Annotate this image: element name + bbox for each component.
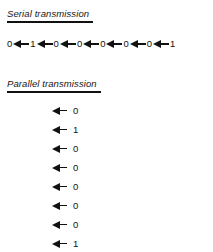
parallel-heading-underline [7, 91, 101, 93]
serial-bit-row: 01000001 [7, 36, 175, 52]
arrow-tail [60, 129, 67, 131]
arrow-tail [60, 148, 67, 150]
arrow-left-icon [130, 40, 138, 48]
arrow-left-icon [83, 40, 91, 48]
arrow-left-icon [37, 40, 45, 48]
parallel-transmission-arrow [52, 220, 67, 229]
parallel-section-heading: Parallel transmission [7, 78, 97, 89]
serial-transmission-arrow [60, 40, 76, 49]
parallel-bit: 1 [73, 239, 78, 249]
arrow-left-icon [52, 202, 60, 210]
serial-transmission-arrow [106, 40, 122, 49]
parallel-bit-row: 0 [52, 139, 112, 158]
arrow-tail [161, 43, 169, 45]
arrow-tail [60, 186, 67, 188]
arrow-tail [68, 43, 76, 45]
arrow-left-icon [52, 183, 60, 191]
parallel-transmission-arrow [52, 106, 67, 115]
parallel-transmission-arrow [52, 182, 67, 191]
arrow-tail [45, 43, 53, 45]
serial-bit: 0 [77, 39, 82, 49]
arrow-left-icon [52, 221, 60, 229]
parallel-transmission-arrow [52, 144, 67, 153]
transmission-diagram: Serial transmission 01000001 Parallel tr… [0, 0, 213, 252]
parallel-transmission-arrow [52, 163, 67, 172]
serial-bit: 1 [30, 39, 35, 49]
parallel-bit-rows: 01000001 [52, 101, 112, 252]
serial-bit: 0 [54, 39, 59, 49]
serial-transmission-arrow [83, 40, 99, 49]
arrow-tail [114, 43, 122, 45]
parallel-bit-row: 0 [52, 158, 112, 177]
serial-transmission-arrow [130, 40, 146, 49]
serial-transmission-arrow [153, 40, 169, 49]
arrow-tail [91, 43, 99, 45]
parallel-bit: 0 [73, 201, 78, 211]
arrow-left-icon [13, 40, 21, 48]
serial-transmission-arrow [13, 40, 29, 49]
arrow-left-icon [106, 40, 114, 48]
arrow-tail [60, 167, 67, 169]
arrow-tail [60, 243, 67, 245]
parallel-transmission-arrow [52, 125, 67, 134]
arrow-left-icon [52, 145, 60, 153]
arrow-left-icon [52, 240, 60, 248]
parallel-bit: 0 [73, 220, 78, 230]
parallel-transmission-arrow [52, 201, 67, 210]
arrow-left-icon [52, 107, 60, 115]
serial-bit: 0 [100, 39, 105, 49]
parallel-bit-row: 0 [52, 215, 112, 234]
arrow-tail [60, 205, 67, 207]
serial-bit: 0 [7, 39, 12, 49]
parallel-transmission-arrow [52, 239, 67, 248]
serial-heading-underline [7, 21, 93, 23]
arrow-tail [60, 110, 67, 112]
arrow-tail [60, 224, 67, 226]
arrow-left-icon [52, 164, 60, 172]
serial-transmission-arrow [37, 40, 53, 49]
parallel-bit: 0 [73, 163, 78, 173]
arrow-tail [21, 43, 29, 45]
serial-bit: 0 [147, 39, 152, 49]
parallel-bit: 0 [73, 144, 78, 154]
parallel-bit: 1 [73, 125, 78, 135]
parallel-bit-row: 1 [52, 234, 112, 252]
serial-bit: 1 [170, 39, 175, 49]
serial-bit: 0 [123, 39, 128, 49]
arrow-left-icon [60, 40, 68, 48]
parallel-bit-row: 0 [52, 177, 112, 196]
arrow-tail [138, 43, 146, 45]
parallel-bit: 0 [73, 182, 78, 192]
parallel-bit: 0 [73, 106, 78, 116]
parallel-bit-row: 0 [52, 101, 112, 120]
parallel-bit-row: 1 [52, 120, 112, 139]
parallel-bit-row: 0 [52, 196, 112, 215]
arrow-left-icon [52, 126, 60, 134]
serial-section-heading: Serial transmission [7, 8, 89, 19]
arrow-left-icon [153, 40, 161, 48]
